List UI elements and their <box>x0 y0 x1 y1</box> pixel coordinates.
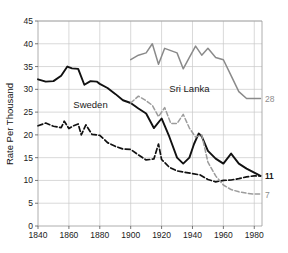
y-axis-tick-labels: 051015202530354045 <box>24 16 34 231</box>
series-annotation-sweden: Sweden <box>73 99 107 110</box>
x-axis-tick-label: 1920 <box>152 230 171 240</box>
x-axis-tick-labels: 18401860188019001920194019601980 <box>29 230 264 240</box>
x-axis-tick-label: 1940 <box>183 230 202 240</box>
x-axis-tick-label: 1980 <box>245 230 264 240</box>
y-axis-tick-label: 20 <box>24 130 34 140</box>
y-axis-tick-label: 35 <box>24 62 34 72</box>
axis-frame <box>38 21 262 226</box>
end-value-label: 7 <box>265 190 270 200</box>
end-value-label: 11 <box>265 171 274 181</box>
x-axis-tick-label: 1880 <box>90 230 109 240</box>
end-value-label: 28 <box>265 94 275 104</box>
tick-marks <box>35 21 254 229</box>
grid-layer <box>38 21 262 226</box>
series-annotation-sri-lanka: Sri Lanka <box>169 83 210 94</box>
x-axis-tick-label: 1960 <box>214 230 233 240</box>
y-axis-tick-label: 40 <box>24 39 34 49</box>
y-axis-tick-label: 15 <box>24 153 34 163</box>
y-axis-tick-label: 10 <box>24 175 34 185</box>
series-line-sri-lanka-death-rate <box>131 96 261 194</box>
annotation-layer: SwedenSri Lanka <box>73 83 210 110</box>
y-axis-tick-label: 45 <box>24 16 34 26</box>
y-axis-title: Rate Per Thousand <box>4 83 15 165</box>
demographic-transition-line-chart: 051015202530354045 184018601880190019201… <box>0 0 288 253</box>
y-axis-tick-label: 30 <box>24 84 34 94</box>
x-axis-tick-label: 1840 <box>29 230 48 240</box>
chart-container: 051015202530354045 184018601880190019201… <box>0 0 288 253</box>
end-label-layer: 2811117 <box>265 94 275 200</box>
x-axis-tick-label: 1900 <box>121 230 140 240</box>
x-axis-tick-label: 1860 <box>59 230 78 240</box>
y-axis-tick-label: 25 <box>24 107 34 117</box>
series-line-sweden-death-rate <box>38 121 260 182</box>
y-axis-tick-label: 5 <box>28 198 33 208</box>
